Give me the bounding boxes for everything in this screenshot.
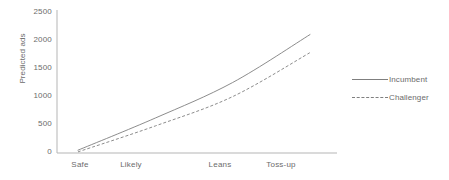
legend-item-challenger: Challenger — [352, 88, 447, 106]
legend-line-solid-icon — [352, 75, 388, 83]
x-axis-tick-leans: Leans — [209, 160, 232, 169]
legend-item-incumbent: Incumbent — [352, 70, 447, 88]
x-axis-tick-safe: Safe — [71, 160, 88, 169]
legend-label-challenger: Challenger — [388, 93, 429, 102]
legend-line-dashed-icon — [352, 93, 388, 101]
legend-label-incumbent: Incumbent — [388, 75, 427, 84]
x-axis-tick-tossup: Toss-up — [266, 160, 295, 169]
x-axis-tick-likely: Likely — [120, 160, 142, 169]
chart-legend: Incumbent Challenger — [352, 70, 447, 106]
line-chart: Predicted ads 2500 2000 1500 1000 500 0 … — [0, 0, 449, 180]
